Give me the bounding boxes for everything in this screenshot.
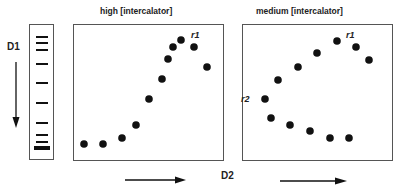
d2-arrow-icons <box>0 0 401 191</box>
d2-arrow-left-icon <box>125 177 186 184</box>
d2-arrow-right-icon <box>280 178 347 185</box>
